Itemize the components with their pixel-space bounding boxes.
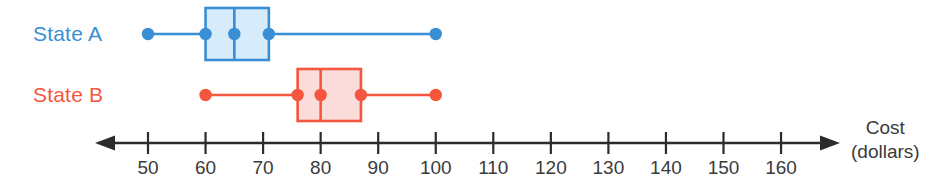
axis-arrow-right <box>820 136 840 151</box>
boxplot-figure: State A State B 506070809010011012013014… <box>0 0 948 195</box>
marker-median <box>228 28 240 40</box>
marker-q3 <box>355 89 367 101</box>
axis-label-line-2: (dollars) <box>851 140 920 164</box>
axis-label-cost: Cost (dollars) <box>851 116 920 165</box>
axis-tick-label: 60 <box>195 157 216 179</box>
axis-label-line-1: Cost <box>851 116 920 140</box>
axis-tick-label: 80 <box>310 157 331 179</box>
axis-tick-label: 120 <box>535 157 567 179</box>
boxplot-series-state-a <box>142 8 442 60</box>
axis-tick-label: 110 <box>478 157 508 179</box>
axis-tick-label: 130 <box>593 157 625 179</box>
axis-tick-label: 100 <box>420 157 452 179</box>
axis-tick-label: 50 <box>137 157 158 179</box>
axis-tick-label: 150 <box>708 157 740 179</box>
axis-tick-label: 140 <box>650 157 682 179</box>
box-iqr <box>298 69 361 121</box>
axis-tick-label: 70 <box>253 157 274 179</box>
marker-max <box>430 28 442 40</box>
axis-group <box>95 132 840 154</box>
marker-max <box>430 89 442 101</box>
marker-q1 <box>199 28 211 40</box>
marker-min <box>142 28 154 40</box>
marker-q3 <box>263 28 275 40</box>
axis-tick-label: 90 <box>368 157 389 179</box>
marker-median <box>314 89 326 101</box>
boxplot-series-state-b <box>199 69 442 121</box>
axis-tick-label: 160 <box>765 157 797 179</box>
axis-arrow-left <box>95 136 115 151</box>
marker-min <box>199 89 211 101</box>
marker-q1 <box>291 89 303 101</box>
